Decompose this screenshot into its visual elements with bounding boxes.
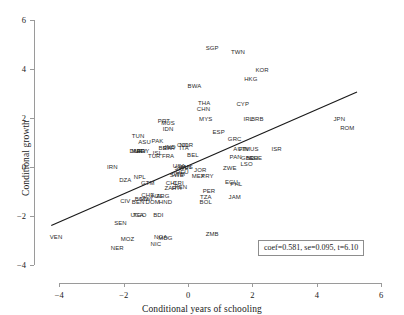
- y-axis-tick: [30, 216, 34, 217]
- country-label: BEL: [187, 152, 199, 158]
- country-label: GRC: [228, 136, 242, 142]
- scatter-plot-figure: Conditional growth −4−20246−4−20246 SGPT…: [0, 0, 404, 315]
- country-label: UGA: [131, 212, 144, 218]
- y-axis-tick: [30, 20, 34, 21]
- country-label: MUS: [245, 146, 259, 152]
- country-label: DOM: [145, 199, 159, 205]
- y-axis-tick-label: −4: [0, 260, 26, 270]
- x-axis-title: Conditional years of schooling: [0, 304, 404, 314]
- country-label: KEN: [175, 184, 188, 190]
- country-label: CHE: [249, 155, 262, 161]
- y-axis-tick-label: 0: [0, 162, 26, 172]
- country-label: NER: [111, 245, 124, 251]
- x-axis-tick-label: −4: [46, 290, 72, 300]
- country-label: DNK: [129, 148, 142, 154]
- country-label: JPN: [333, 116, 345, 122]
- country-label: KOR: [255, 67, 268, 73]
- country-label: ISR: [271, 146, 281, 152]
- x-axis-tick: [381, 283, 382, 287]
- country-label: MYS: [199, 116, 212, 122]
- x-axis-tick: [317, 283, 318, 287]
- y-axis-tick: [30, 69, 34, 70]
- country-label: BDI: [153, 212, 163, 218]
- x-axis-tick: [252, 283, 253, 287]
- y-axis-tick-label: 4: [0, 64, 26, 74]
- country-label: PER: [203, 188, 216, 194]
- country-label: BOL: [200, 199, 212, 205]
- country-label: JAM: [229, 194, 241, 200]
- country-label: ZMB: [206, 231, 219, 237]
- y-axis-tick-label: 2: [0, 113, 26, 123]
- country-label: PRY: [201, 173, 214, 179]
- country-label: ASU: [138, 139, 151, 145]
- y-axis-tick: [30, 265, 34, 266]
- country-label: TWN: [231, 49, 245, 55]
- x-axis-tick-label: 4: [304, 290, 330, 300]
- x-axis-tick-label: −2: [111, 290, 137, 300]
- country-label: ESP: [212, 129, 224, 135]
- country-label: THA: [198, 100, 210, 106]
- x-axis-tick-label: 2: [239, 290, 265, 300]
- country-label: BWA: [188, 83, 202, 89]
- y-axis-tick-label: −2: [0, 211, 26, 221]
- country-label: TUR: [148, 153, 161, 159]
- country-label: BRB: [251, 116, 264, 122]
- country-label: CHN: [197, 106, 210, 112]
- x-axis-tick: [124, 283, 125, 287]
- y-axis-line: [34, 20, 35, 265]
- country-label: DZA: [119, 177, 131, 183]
- country-label: IDN: [163, 126, 174, 132]
- country-label: NPL: [134, 174, 146, 180]
- country-label: MOZ: [121, 236, 135, 242]
- country-label: SEN: [114, 220, 127, 226]
- y-axis-tick: [30, 118, 34, 119]
- country-label: TUN: [132, 133, 145, 139]
- country-label: HKG: [244, 76, 257, 82]
- country-label: GTM: [141, 180, 155, 186]
- country-label: ROM: [340, 125, 354, 131]
- country-label: CYP: [236, 101, 249, 107]
- country-label: HND: [159, 199, 172, 205]
- country-label: ZWE: [223, 165, 237, 171]
- x-axis-tick: [188, 283, 189, 287]
- x-axis-line: [59, 283, 381, 284]
- country-label: VEN: [50, 234, 63, 240]
- country-label: NGA: [154, 234, 167, 240]
- x-axis-tick-label: 6: [368, 290, 394, 300]
- country-label: CIV: [120, 198, 130, 204]
- country-label: LSO: [240, 161, 252, 167]
- x-axis-tick: [59, 283, 60, 287]
- country-label: IRN: [107, 164, 118, 170]
- country-label: PHL: [230, 181, 242, 187]
- country-label: NIC: [151, 241, 162, 247]
- country-label: SYR: [162, 145, 175, 151]
- y-axis-title: Conditional growth: [21, 88, 31, 228]
- plot-area: SGPTWNKORHKGBWATHACYPCHNMYSIRLBRBJPNPRTM…: [40, 10, 394, 277]
- country-label: SWE: [170, 172, 184, 178]
- regression-stats-box: coef=0.581, se=0.095, t=6.10: [258, 240, 364, 256]
- country-label: ITA: [180, 145, 189, 151]
- country-label: SGP: [206, 45, 219, 51]
- country-label: BEN: [132, 199, 145, 205]
- country-label: PAK: [152, 138, 164, 144]
- regression-stats-text: coef=0.581, se=0.095, t=6.10: [264, 243, 358, 252]
- x-axis-tick-label: 0: [175, 290, 201, 300]
- y-axis-tick-label: 6: [0, 15, 26, 25]
- country-label: FRA: [162, 153, 174, 159]
- y-axis-tick: [30, 167, 34, 168]
